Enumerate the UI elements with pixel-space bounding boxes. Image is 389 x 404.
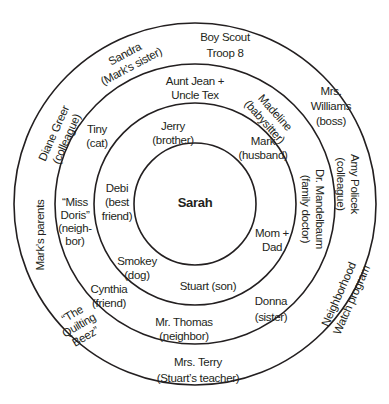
label-line: (neighbor): [146, 329, 222, 343]
ring1-debi: Debi (best friend): [96, 181, 138, 223]
label-line: (Stuart’s teacher): [143, 370, 253, 386]
label-line: Tiny: [79, 122, 115, 136]
ring2-miss-doris: “Miss Doris” (neigh- bor): [54, 196, 96, 248]
label-line: Mrs. Terry: [143, 354, 253, 370]
label-line: Mr. Thomas: [146, 315, 222, 329]
ring1-mom-dad: Mom + Dad: [252, 226, 292, 254]
ring2-donna: Donna (sister): [246, 293, 296, 325]
label-line: Jerry: [138, 119, 208, 133]
label-line: (best: [96, 195, 138, 209]
ring3-mrs-terry: Mrs. Terry (Stuart’s teacher): [143, 354, 253, 386]
label-line: Boy Scout: [190, 29, 260, 45]
label-line: “Miss: [54, 196, 96, 209]
label-line: Donna: [246, 293, 296, 309]
label-line: Stuart (son): [168, 279, 248, 293]
label-line: (dog): [112, 268, 162, 282]
ring1-smokey: Smokey (dog): [112, 254, 162, 282]
label-line: Smokey: [112, 254, 162, 268]
label-line: Mom +: [252, 226, 292, 240]
label-line: Amy Policek: [348, 146, 362, 222]
center-label: Sarah: [160, 196, 230, 210]
label-line: Mrs.: [306, 84, 356, 99]
label-line: (sister): [246, 309, 296, 325]
label-line: Troop 8: [190, 45, 260, 61]
ring3-marks-parents: Mark’s parents: [33, 190, 47, 280]
ring3-mrs-williams: Mrs. Williams (boss): [306, 84, 356, 129]
label-line: (neigh-: [54, 222, 96, 235]
center-text: Sarah: [160, 196, 230, 210]
label-line: Doris”: [54, 209, 96, 222]
label-line: (colleague): [334, 146, 348, 222]
ring2-tiny: Tiny (cat): [79, 122, 115, 150]
label-line: Dad: [252, 240, 292, 254]
ring2-mr-thomas: Mr. Thomas (neighbor): [146, 315, 222, 343]
label-line: (brother): [138, 133, 208, 147]
label-line: Cynthia: [84, 282, 134, 296]
label-line: (family doctor): [299, 164, 313, 254]
label-line: (cat): [79, 136, 115, 150]
label-line: Mark’s parents: [33, 190, 47, 280]
label-line: friend): [96, 209, 138, 223]
ring1-jerry: Jerry (brother): [138, 119, 208, 147]
label-line: Aunt Jean +: [150, 74, 240, 88]
ring1-stuart: Stuart (son): [168, 279, 248, 293]
label-line: bor): [54, 235, 96, 248]
label-line: Uncle Tex: [150, 88, 240, 102]
ring3-amy-policek: Amy Policek (colleague): [334, 146, 362, 222]
label-line: Debi: [96, 181, 138, 195]
label-line: (boss): [306, 114, 356, 129]
ring2-dr-mandelbaum: Dr. Mandelbaum (family doctor): [299, 164, 327, 254]
ring3-boy-scout: Boy Scout Troop 8: [190, 29, 260, 61]
label-line: Dr. Mandelbaum: [313, 164, 327, 254]
label-line: Williams: [306, 99, 356, 114]
ring2-aunt-jean-uncle-tex: Aunt Jean + Uncle Tex: [150, 74, 240, 102]
